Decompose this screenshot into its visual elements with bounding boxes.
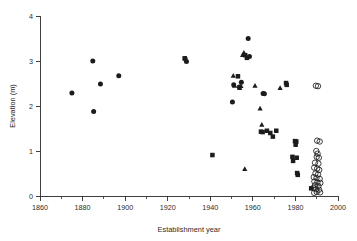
data-point <box>230 99 235 104</box>
y-axis-title: Elevation (m) <box>8 84 17 128</box>
data-point <box>262 91 267 96</box>
x-tick-label: 1980 <box>287 203 303 212</box>
data-point <box>290 155 295 160</box>
data-point <box>91 109 96 114</box>
x-tick-label: 1880 <box>75 203 91 212</box>
y-tick-label: 2 <box>29 102 33 111</box>
data-point <box>210 153 215 158</box>
data-point <box>90 59 95 64</box>
x-tick-label: 2000 <box>330 203 346 212</box>
scatter-chart-figure: 1860188019001920194019601980200001234Est… <box>0 0 357 241</box>
y-tick-label: 4 <box>29 12 33 21</box>
data-point <box>252 83 257 88</box>
data-point <box>271 134 276 139</box>
data-point <box>242 166 247 171</box>
data-point <box>246 36 251 41</box>
data-point <box>294 139 299 144</box>
data-point <box>69 90 74 95</box>
x-tick-label: 1920 <box>160 203 176 212</box>
x-tick-label: 1960 <box>245 203 261 212</box>
x-tick-label: 1860 <box>32 203 48 212</box>
data-point <box>231 73 236 78</box>
data-point <box>259 122 264 127</box>
series-open-circle <box>311 83 323 196</box>
x-tick-label: 1900 <box>117 203 133 212</box>
data-point <box>278 85 283 90</box>
series-filled-triangle <box>231 50 283 171</box>
data-point <box>260 130 265 135</box>
y-tick-label: 1 <box>29 147 33 156</box>
series-filled-square <box>182 53 313 191</box>
plot-area: 1860188019001920194019601980200001234Est… <box>0 0 357 241</box>
data-point <box>312 160 317 165</box>
y-tick-label: 0 <box>29 192 33 201</box>
data-point <box>116 73 121 78</box>
data-point <box>257 106 262 111</box>
data-point <box>296 173 301 178</box>
data-point <box>274 129 279 134</box>
data-point <box>239 80 244 85</box>
x-tick-label: 1940 <box>202 203 218 212</box>
data-point <box>241 50 246 55</box>
data-point <box>284 83 289 88</box>
y-tick-label: 3 <box>29 57 33 66</box>
data-point <box>245 56 250 61</box>
x-axis-title: Establishment year <box>158 225 221 234</box>
data-point <box>236 74 241 79</box>
data-point <box>182 56 187 61</box>
data-point <box>98 81 103 86</box>
data-point <box>294 156 299 161</box>
